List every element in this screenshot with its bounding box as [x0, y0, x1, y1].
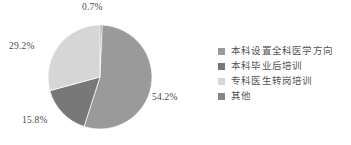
slice-label-undergraduate-general-practice: 54.2% [152, 92, 178, 102]
legend-item-label: 本科毕业后培训 [231, 62, 302, 72]
legend-swatch-icon [218, 63, 225, 70]
legend-swatch-icon [218, 93, 225, 100]
legend-item-post-graduate-training: 本科毕业后培训 [218, 59, 351, 74]
pie-plot-area: 0.7% 29.2% 15.8% 54.2% [0, 0, 200, 145]
legend-item-other: 其他 [218, 89, 351, 104]
legend-item-label: 专科医生转岗培训 [231, 77, 313, 87]
legend-item-label: 本科设置全科医学方向 [231, 47, 333, 57]
legend-item-specialist-transfer-training: 专科医生转岗培训 [218, 74, 351, 89]
pie-chart-figure: 0.7% 29.2% 15.8% 54.2% 本科设置全科医学方向 本科毕业后培… [0, 0, 351, 145]
slice-label-other: 0.7% [82, 2, 103, 12]
chart-legend: 本科设置全科医学方向 本科毕业后培训 专科医生转岗培训 其他 [218, 44, 351, 104]
slice-label-specialist-transfer-training: 29.2% [9, 41, 35, 51]
legend-swatch-icon [218, 78, 225, 85]
legend-item-label: 其他 [231, 92, 251, 102]
legend-swatch-icon [218, 48, 225, 55]
pie-slice-group [48, 25, 152, 129]
slice-label-post-graduate-training: 15.8% [22, 115, 48, 125]
legend-item-undergraduate-general-practice: 本科设置全科医学方向 [218, 44, 351, 59]
